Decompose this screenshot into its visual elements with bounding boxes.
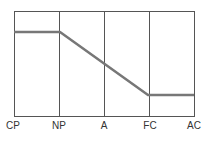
- x-axis-labels: CP NP A FC AC: [6, 120, 201, 131]
- x-label-fc: FC: [143, 120, 156, 131]
- x-label-ac: AC: [187, 120, 201, 131]
- x-label-cp: CP: [6, 120, 20, 131]
- x-label-a: A: [101, 120, 108, 131]
- chart: CP NP A FC AC: [0, 0, 206, 142]
- x-label-np: NP: [52, 120, 66, 131]
